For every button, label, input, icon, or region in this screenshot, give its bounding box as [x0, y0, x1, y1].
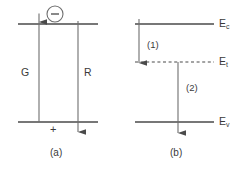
conduction-band-label-base: E: [219, 17, 226, 29]
diagram-vector-layer: [0, 0, 244, 171]
valence-band-label-sub: v: [226, 121, 230, 128]
generation-label: G: [21, 67, 29, 78]
band-diagram-figure: G R + (a) Ec Et Ev (1) (2) (b): [0, 0, 244, 171]
trap-level-label: Et: [219, 56, 228, 67]
conduction-band-label-sub: c: [226, 23, 230, 30]
trap-level-label-base: E: [219, 55, 226, 67]
hole-plus-label: +: [50, 124, 56, 135]
valence-band-label: Ev: [219, 116, 230, 127]
panel-b-graphics: [135, 19, 214, 133]
trap-level-label-sub: t: [226, 61, 228, 68]
valence-band-label-base: E: [219, 115, 226, 127]
conduction-band-label: Ec: [219, 18, 230, 29]
recombination-label: R: [84, 67, 92, 78]
panel-a-caption: (a): [50, 148, 62, 158]
transition-1-label: (1): [147, 40, 159, 50]
panel-b-caption: (b): [170, 148, 182, 158]
transition-2-label: (2): [186, 83, 198, 93]
